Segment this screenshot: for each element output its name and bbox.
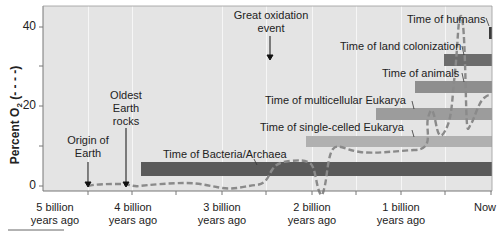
annotation-oldest-earth-rocks: Oldest Earth rocks — [100, 89, 152, 128]
bar-label-humans: Time of humans — [407, 13, 485, 25]
xtick-now: Now — [450, 201, 502, 214]
y-ticks — [39, 27, 43, 186]
xtick-3-billion: 3 billion years ago — [187, 201, 257, 227]
xtick-line1: 5 billion — [20, 201, 90, 214]
annotation-line: rocks — [100, 115, 152, 128]
xtick-line1: 4 billion — [98, 201, 168, 214]
annotation-line: event — [225, 22, 317, 35]
xtick-line2: years ago — [187, 214, 257, 227]
annotation-origin-of-earth: Origin of Earth — [60, 134, 116, 160]
y-axis-label: Percent O2 (- - - -) — [4, 50, 28, 180]
ytick-40: 40 — [20, 19, 36, 33]
xtick-line1: 2 billion — [277, 201, 347, 214]
bar-humans — [489, 27, 492, 39]
xtick-line2: years ago — [366, 214, 436, 227]
annotation-line: Earth — [100, 102, 152, 115]
xtick-line1: Now — [450, 201, 502, 214]
arrow-oxidation-icon — [267, 55, 273, 60]
annotation-great-oxidation-event: Great oxidation event — [225, 9, 317, 35]
bar-label-animals: Time of animals — [382, 67, 459, 79]
ytick-0: 0 — [20, 178, 36, 192]
xtick-1-billion: 1 billion years ago — [366, 201, 436, 227]
x-ticks — [88, 191, 491, 195]
annotation-line: Oldest — [100, 89, 152, 102]
annotation-line: Earth — [60, 147, 116, 160]
bar-land-colonization — [444, 54, 492, 66]
bar-single-celled-eukarya — [306, 136, 492, 147]
bar-label-land-colonization: Time of land colonization — [340, 40, 461, 52]
ytick-20: 20 — [20, 98, 36, 112]
annotation-line: Great oxidation — [225, 9, 317, 22]
xtick-line1: 3 billion — [187, 201, 257, 214]
bar-label-single-celled-eukarya: Time of single-celled Eukarya — [260, 121, 404, 133]
bar-label-multicellular-eukarya: Time of multicellular Eukarya — [265, 94, 406, 106]
bar-bacteria-archaea — [141, 162, 492, 176]
xtick-line1: 1 billion — [366, 201, 436, 214]
y-axis-label-text: Percent O — [8, 108, 22, 165]
xtick-5-billion: 5 billion years ago — [20, 201, 90, 227]
xtick-line2: years ago — [98, 214, 168, 227]
xtick-line2: years ago — [20, 214, 90, 227]
xtick-line2: years ago — [277, 214, 347, 227]
xtick-2-billion: 2 billion years ago — [277, 201, 347, 227]
xtick-4-billion: 4 billion years ago — [98, 201, 168, 227]
annotation-line: Origin of — [60, 134, 116, 147]
bar-label-bacteria-archaea: Time of Bacteria/Archaea — [163, 148, 287, 160]
